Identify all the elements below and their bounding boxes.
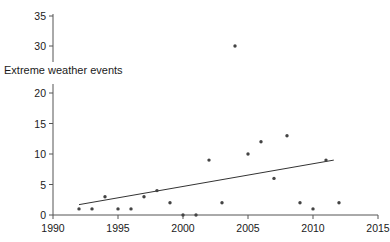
y-tick-label: 10 (34, 149, 46, 160)
data-point (285, 134, 288, 137)
axes-group (49, 14, 378, 219)
y-tick-label: 30 (34, 41, 46, 52)
chart-container: Extreme weather events 051015203035 1990… (0, 0, 390, 242)
x-tick-label: 2010 (293, 223, 333, 234)
data-point (259, 140, 262, 143)
data-point (103, 195, 106, 198)
x-tick-label: 2000 (163, 223, 203, 234)
data-point (168, 201, 171, 204)
data-point (77, 207, 80, 210)
data-point (220, 201, 223, 204)
data-point (272, 177, 275, 180)
data-point (324, 158, 327, 161)
data-point (90, 207, 93, 210)
data-point (155, 189, 158, 192)
x-tick-label: 2005 (228, 223, 268, 234)
x-tick-label: 1990 (33, 223, 73, 234)
data-point (337, 201, 340, 204)
data-point (142, 195, 145, 198)
trendline-path (79, 160, 334, 205)
data-point (246, 152, 249, 155)
y-tick-label: 35 (34, 11, 46, 22)
y-tick-label: 15 (34, 119, 46, 130)
data-point (233, 44, 236, 47)
x-tick-label: 2015 (358, 223, 390, 234)
data-point (116, 207, 119, 210)
y-axis-title: Extreme weather events (4, 64, 125, 77)
data-point (181, 213, 184, 216)
scatter-plot-canvas (0, 0, 390, 242)
y-tick-label: 5 (40, 180, 46, 191)
data-point (311, 207, 314, 210)
data-point (129, 207, 132, 210)
trendline (79, 160, 334, 205)
y-tick-label: 20 (34, 88, 46, 99)
data-point (298, 201, 301, 204)
data-point (194, 213, 197, 216)
data-point (207, 158, 210, 161)
y-tick-label: 0 (40, 210, 46, 221)
x-tick-label: 1995 (98, 223, 138, 234)
